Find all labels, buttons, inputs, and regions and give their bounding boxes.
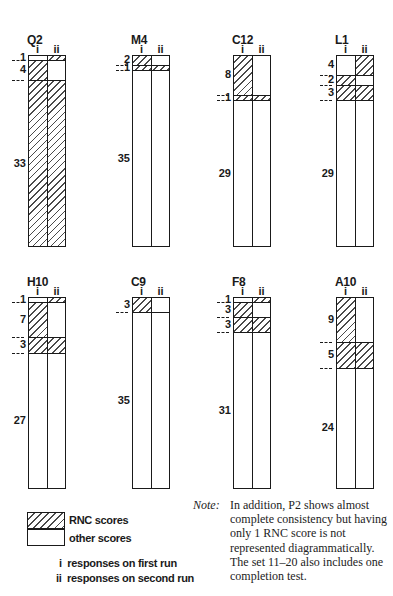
segment-dash-marker [12, 302, 24, 303]
segment-value: 33 [6, 157, 26, 169]
segment-dash-marker [217, 332, 229, 333]
segment-dash-marker [320, 100, 332, 101]
legend-other-label: other scores [69, 532, 131, 544]
column-divider [47, 297, 48, 489]
column-divider [47, 55, 48, 247]
column-divider [355, 55, 356, 247]
segment-dash-marker [116, 312, 128, 313]
column-label-second: ii [252, 285, 271, 297]
column-divider [252, 297, 253, 489]
column-label-first: i [336, 43, 355, 55]
column-label-first: i [233, 285, 252, 297]
column-label-first: i [336, 285, 355, 297]
legend-other-swatch [27, 528, 65, 546]
segment-value: 4 [6, 63, 26, 75]
column-label-first: i [28, 285, 47, 297]
column-label-second: ii [47, 43, 66, 55]
segment-dash-marker [217, 100, 229, 101]
segment-value: 3 [211, 318, 231, 330]
column-label-second: ii [151, 285, 170, 297]
column-label-first: i [132, 285, 151, 297]
segment-value: 4 [314, 58, 334, 70]
segment-dash-marker [12, 60, 24, 61]
segment-value: 8 [211, 68, 231, 80]
segment-dash-marker [12, 80, 24, 81]
segment-value: 9 [314, 313, 334, 325]
column-label-second: ii [355, 285, 374, 297]
segment-value: 3 [110, 298, 130, 310]
segment-dash-marker [116, 70, 128, 71]
segment-dash-marker [320, 342, 332, 343]
segment-value: 29 [211, 167, 231, 179]
column-divider [151, 297, 152, 489]
segment-value: 7 [6, 313, 26, 325]
column-label-second: ii [47, 285, 66, 297]
segment-value: 29 [314, 167, 334, 179]
segment-dash-marker [320, 368, 332, 369]
segment-value: 3 [211, 303, 231, 315]
note-label: Note: [193, 498, 220, 512]
legend-first-run: i responses on first run [59, 557, 177, 569]
column-label-first: i [233, 43, 252, 55]
legend-second-run: ii responses on second run [56, 572, 194, 584]
segment-value: 35 [110, 152, 130, 164]
segment-dash-marker [12, 353, 24, 354]
column-divider [151, 55, 152, 247]
column-label-second: ii [355, 43, 374, 55]
column-label-second: ii [151, 43, 170, 55]
segment-value: 2 [314, 73, 334, 85]
segment-value: 27 [6, 414, 26, 426]
column-label-second: ii [252, 43, 271, 55]
segment-value: 3 [314, 86, 334, 98]
column-label-first: i [132, 43, 151, 55]
segment-value: 24 [314, 421, 334, 433]
segment-value: 35 [110, 394, 130, 406]
column-divider [355, 297, 356, 489]
note-text: In addition, P2 shows almost complete co… [230, 498, 390, 583]
legend-rnc-label: RNC scores [69, 514, 128, 526]
segment-value: 5 [314, 348, 334, 360]
column-label-first: i [28, 43, 47, 55]
column-divider [252, 55, 253, 247]
segment-value: 3 [6, 338, 26, 350]
segment-value: 31 [211, 404, 231, 416]
